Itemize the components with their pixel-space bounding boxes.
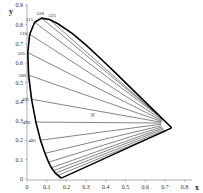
x-tick-label: 0.4 xyxy=(102,184,110,190)
wavelength-label: 495 xyxy=(22,97,30,102)
chromaticity-chart: 00.10.20.30.40.50.60.70.80.900.10.20.30.… xyxy=(0,0,203,193)
wavelength-label: 515 xyxy=(26,17,34,22)
y-tick-label: 0.8 xyxy=(16,22,24,28)
x-tick-label: 0.5 xyxy=(122,184,130,190)
x-tick-label: 0.3 xyxy=(82,184,90,190)
y-tick-label: 0.5 xyxy=(16,80,24,86)
wavelength-label: 520 xyxy=(37,11,45,16)
x-tick-label: 0.2 xyxy=(63,184,71,190)
y-tick-label: 0.9 xyxy=(16,2,24,8)
y-tick-label: 0.1 xyxy=(16,157,24,163)
wavelength-label: 490 xyxy=(23,120,31,125)
axes: 00.10.20.30.40.50.60.70.80.900.10.20.30.… xyxy=(9,2,199,192)
chart-canvas: 00.10.20.30.40.50.60.70.80.900.10.20.30.… xyxy=(0,0,203,193)
y-tick-label: 0.6 xyxy=(16,60,24,66)
wavelength-label: 500 xyxy=(19,73,27,78)
x-axis-label: x xyxy=(195,183,199,192)
dominant-wavelength-line xyxy=(36,122,161,123)
dominant-wavelength-line xyxy=(49,20,163,121)
dominant-wavelength-line xyxy=(55,130,165,173)
spectral-locus xyxy=(28,18,172,178)
dominant-wavelength-line xyxy=(41,124,161,140)
white-point-icon: × xyxy=(90,111,96,119)
x-tick-label: 0.6 xyxy=(141,184,149,190)
wavelength-label: 510 xyxy=(20,31,28,36)
x-tick-label: 0.7 xyxy=(161,184,169,190)
x-tick-label: 0.1 xyxy=(43,184,51,190)
dominant-wavelength-line xyxy=(35,22,163,119)
wavelength-label: 485 xyxy=(29,138,37,143)
spectral-locus-curve xyxy=(28,18,172,178)
y-tick-label: 0.7 xyxy=(16,41,24,47)
y-tick-label: 0 xyxy=(20,176,23,182)
y-tick-label: 0.2 xyxy=(16,137,24,143)
dominant-wavelength-line xyxy=(30,34,163,120)
dominant-wavelength-line xyxy=(54,129,164,170)
fan-lines xyxy=(28,18,166,175)
white-point-marker: × xyxy=(90,111,96,119)
wavelength-label: 505 xyxy=(18,51,26,56)
x-tick-label: 0.8 xyxy=(181,184,189,190)
wavelength-label: 525 xyxy=(48,13,56,18)
y-axis-label: y xyxy=(9,7,13,16)
dominant-wavelength-line xyxy=(49,127,162,162)
x-tick-label: 0 xyxy=(26,184,29,190)
wavelength-labels: 515520525510505500495490485 xyxy=(18,11,57,143)
